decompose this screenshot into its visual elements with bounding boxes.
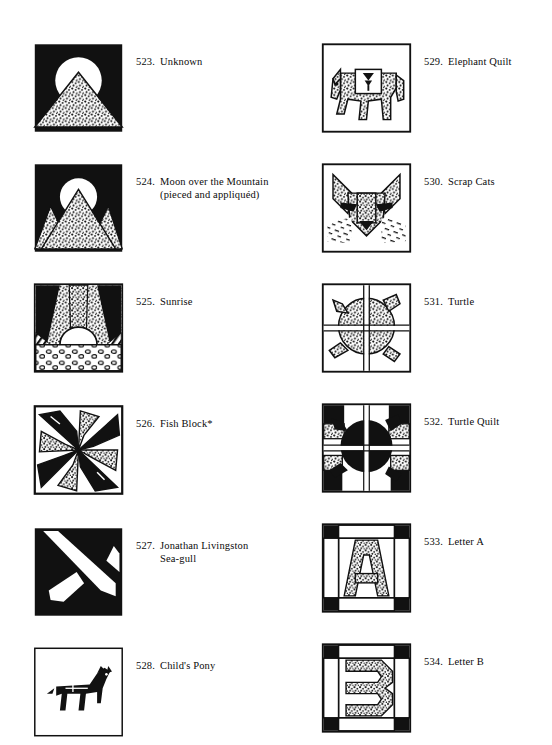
entry-title: Jonathan Livingston Sea-gull — [160, 540, 270, 565]
caption-523: 523.Unknown — [136, 56, 276, 69]
figure-childs-pony — [32, 644, 125, 740]
entry-number: 532. — [424, 416, 448, 429]
figure-moon-over-mountain-single — [32, 40, 125, 136]
entry-number: 528. — [136, 660, 160, 673]
entry-number: 524. — [136, 176, 160, 189]
figure-turtle-quilt — [320, 400, 413, 496]
caption-525: 525.Sunrise — [136, 296, 276, 309]
figure-fish-block-pinwheel — [32, 402, 125, 498]
caption-531: 531.Turtle — [424, 296, 552, 309]
entry-title: Letter B — [448, 656, 548, 669]
caption-533: 533.Letter A — [424, 536, 552, 549]
catalog-entry-533[interactable]: 533.Letter A — [276, 518, 552, 638]
figure-sunrise — [32, 280, 125, 376]
entry-title-line2: gull — [179, 553, 196, 564]
catalog-entry-526[interactable]: 526.Fish Block* — [0, 400, 276, 520]
caption-532: 532.Turtle Quilt — [424, 416, 552, 429]
caption-524: 524.Moon over the Mountain (pieced and a… — [136, 176, 276, 201]
catalog-entry-531[interactable]: 531.Turtle — [276, 278, 552, 398]
figure-scrap-cat-face — [320, 160, 413, 256]
entry-number: 527. — [136, 540, 160, 553]
entry-title-line1: Jonathan Livingston Sea- — [160, 540, 248, 564]
figure-turtle — [320, 280, 413, 376]
entry-number: 526. — [136, 418, 160, 431]
right-column: 529.Elephant Quilt — [276, 0, 552, 745]
caption-528: 528.Child's Pony — [136, 660, 276, 673]
catalog-entry-530[interactable]: 530.Scrap Cats — [276, 158, 552, 278]
entry-number: 533. — [424, 536, 448, 549]
entry-title: Unknown — [160, 56, 270, 69]
catalog-page: 523.Unknown 524.Moon over the Mountain (… — [0, 0, 552, 745]
entry-title: Scrap Cats — [448, 176, 548, 189]
figure-letter-b-block — [320, 640, 413, 736]
entry-title: Turtle — [448, 296, 548, 309]
figure-moon-over-mountain-triple — [32, 160, 125, 256]
catalog-entry-528[interactable]: 528.Child's Pony — [0, 642, 276, 745]
entry-number: 529. — [424, 56, 448, 69]
figure-seagull — [32, 524, 125, 620]
caption-526: 526.Fish Block* — [136, 418, 276, 431]
caption-530: 530.Scrap Cats — [424, 176, 552, 189]
entry-title: Elephant Quilt — [448, 56, 548, 69]
catalog-entry-532[interactable]: 532.Turtle Quilt — [276, 398, 552, 518]
figure-elephant — [320, 40, 413, 136]
entry-title: Sunrise — [160, 296, 270, 309]
entry-number: 531. — [424, 296, 448, 309]
catalog-entry-524[interactable]: 524.Moon over the Mountain (pieced and a… — [0, 158, 276, 278]
entry-number: 534. — [424, 656, 448, 669]
entry-number: 523. — [136, 56, 160, 69]
catalog-entry-529[interactable]: 529.Elephant Quilt — [276, 38, 552, 158]
entry-title: Child's Pony — [160, 660, 270, 673]
entry-title-line2: (pieced and appliquéd) — [160, 189, 260, 200]
entry-title: Fish Block* — [160, 418, 270, 431]
entry-number: 525. — [136, 296, 160, 309]
caption-527: 527.Jonathan Livingston Sea-gull — [136, 540, 276, 565]
figure-letter-a-block — [320, 520, 413, 616]
entry-number: 530. — [424, 176, 448, 189]
entry-title: Moon over the Mountain (pieced and appli… — [160, 176, 270, 201]
left-column: 523.Unknown 524.Moon over the Mountain (… — [0, 0, 276, 745]
caption-534: 534.Letter B — [424, 656, 552, 669]
catalog-entry-525[interactable]: 525.Sunrise — [0, 278, 276, 398]
catalog-entry-523[interactable]: 523.Unknown — [0, 38, 276, 158]
catalog-entry-534[interactable]: 534.Letter B — [276, 638, 552, 745]
entry-title-line1: Moon over the Mountain — [160, 176, 269, 187]
catalog-entry-527[interactable]: 527.Jonathan Livingston Sea-gull — [0, 522, 276, 642]
entry-title: Turtle Quilt — [448, 416, 548, 429]
caption-529: 529.Elephant Quilt — [424, 56, 552, 69]
entry-title: Letter A — [448, 536, 548, 549]
